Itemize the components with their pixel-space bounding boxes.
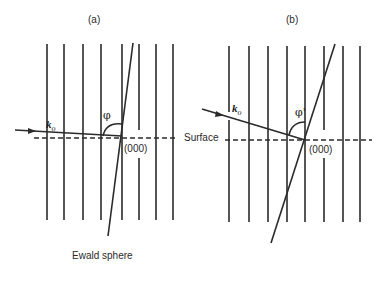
panel-b: (b) ko φ' (000)	[202, 14, 372, 243]
k0-label-b: ko	[232, 102, 242, 117]
origin-label-b: (000)	[309, 144, 332, 155]
phi-prime-label: φ'	[295, 106, 306, 119]
lattice-rods-a	[47, 44, 173, 220]
origin-label-a: (000)	[124, 143, 147, 154]
angle-arc-b	[289, 122, 305, 135]
arrow-icon	[215, 111, 224, 117]
panel-a: (a) ko φ (000) Ewald sphere	[15, 14, 178, 261]
phi-label: φ	[103, 109, 111, 122]
ewald-diagram: (a) ko φ (000) Ewald sphere Surface	[0, 0, 379, 283]
ewald-sphere-a	[108, 43, 133, 236]
panel-a-label: (a)	[88, 14, 100, 25]
lattice-rods-b	[229, 46, 360, 222]
ewald-sphere-label: Ewald sphere	[72, 250, 133, 261]
arrow-icon	[28, 128, 36, 134]
panel-b-label: (b)	[286, 14, 298, 25]
angle-arc-a	[103, 124, 122, 136]
surface-label: Surface	[184, 132, 219, 143]
